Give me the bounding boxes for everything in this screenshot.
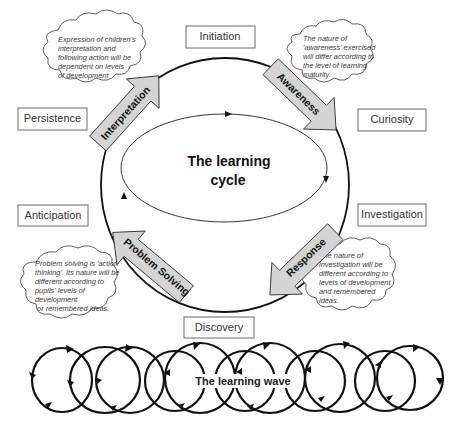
inner-direction-arrow-icon [225,111,232,117]
note-cloud-awareness: The nature of'awareness' exercisedwill d… [287,19,376,82]
svg-text:Problem Solving: Problem Solving [121,236,192,298]
svg-text:Anticipation: Anticipation [25,209,82,221]
wave-direction-arrow-icon [67,380,74,387]
wave-loop [355,351,415,411]
svg-text:Curiosity: Curiosity [371,113,414,125]
wave-direction-arrow-icon [66,345,74,353]
stage-discovery: Discovery [184,317,254,338]
center-title: The learning [187,153,270,169]
svg-text:Discovery: Discovery [195,321,244,333]
wave-loop [32,348,92,412]
note-cloud-problem-solving: Problem solving is 'actionthinking'. Its… [20,246,119,318]
stage-initiation: Initiation [186,26,255,48]
stage-anticipation: Anticipation [18,205,88,226]
wave-title: The learning wave [195,375,290,387]
svg-text:Persistence: Persistence [24,112,81,124]
note-cloud-interpretation: Expression of children'sinterpretation a… [43,10,146,82]
svg-text:Investigation: Investigation [361,208,423,220]
wave-loop [377,346,443,410]
svg-text:Interpretation: Interpretation [98,84,152,142]
stage-persistence: Persistence [18,108,87,130]
inner-direction-arrow-icon [121,192,127,199]
learning-cycle-diagram: The learning cycle Initiation Curiosity … [0,0,459,429]
svg-text:Initiation: Initiation [200,30,241,42]
learning-wave: The learning wave [29,341,444,413]
wave-direction-arrow-icon [318,396,325,402]
stage-investigation: Investigation [358,204,426,226]
center-title-line2: cycle [210,172,245,188]
wave-direction-arrow-icon [125,344,133,352]
stage-curiosity: Curiosity [358,109,426,131]
